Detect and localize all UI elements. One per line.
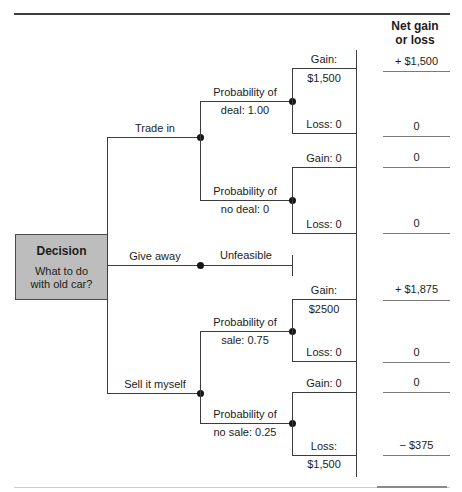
outcome-label-deal-gain: Gain: [294,53,354,66]
outcome-line-sale-loss [292,361,356,362]
deal-outcome-bracket [292,68,293,133]
chance-label-no-sale-line1: Probability of [200,408,290,421]
decision-box: Decision What to do with old car? [15,234,108,300]
outcome-amount-no-sale-loss: $1,500 [294,458,354,471]
outcome-line-no-deal-loss [292,233,356,234]
outcome-label-deal-loss: Loss: 0 [294,118,354,131]
net-gain-column-header: Net gain or loss [384,19,446,47]
outcome-line-no-sale-gain [292,392,356,393]
net-value-no-deal-loss: 0 [383,217,450,230]
chance-line-no-deal [200,200,292,201]
outcome-label-sale-gain: Gain: [294,284,354,297]
outcome-line-no-sale-loss [292,455,356,456]
net-value-no-sale-loss: − $375 [383,439,450,452]
decision-tree-figure: Net gain or loss Decision What to do wit… [0,0,462,492]
branch-label-trade-in: Trade in [115,122,195,135]
outcome-line-deal-gain [292,68,356,69]
chance-label-deal-line1: Probability of [200,86,290,99]
net-underline-sale-loss [383,362,450,363]
net-underline-no-deal-loss [383,233,450,234]
net-underline-deal-loss [383,136,450,137]
chance-label-sale-line1: Probability of [200,316,290,329]
outcome-line-deal-loss [292,133,356,134]
outcome-label-no-sale-loss: Loss: [294,440,354,453]
net-underline-no-sale-loss [383,455,450,456]
chance-label-sale-line2: sale: 0.75 [200,334,290,347]
outcome-amount-sale-gain: $2500 [294,303,354,316]
net-value-no-sale-gain: 0 [383,376,450,389]
decision-box-question-line2: with old car? [16,278,107,291]
net-value-sale-gain: + $1,875 [383,283,450,296]
sale-outcome-bracket [292,299,293,362]
net-underline-no-sale-gain [383,392,450,393]
chance-label-no-deal-line2: no deal: 0 [200,203,290,216]
no-deal-outcome-bracket [292,167,293,233]
net-value-deal-loss: 0 [383,120,450,133]
chance-line-no-sale [200,423,292,424]
net-underline-no-deal-gain [383,167,450,168]
decision-node-dot-give-away [197,262,204,269]
outcome-label-no-sale-gain: Gain: 0 [294,377,354,390]
net-underline-deal-gain [383,71,450,72]
net-value-deal-gain: + $1,500 [383,55,450,68]
payoff-separator-line [356,50,357,477]
branch-line-trade-in [107,137,200,138]
outcome-line-no-deal-gain [292,167,356,168]
no-sale-outcome-bracket [292,392,293,455]
decision-box-question-line1: What to do [16,265,107,278]
decision-box-title: Decision [16,244,107,258]
outcome-amount-deal-gain: $1,500 [294,72,354,85]
outcome-label-no-deal-gain: Gain: 0 [294,152,354,165]
chance-line-deal [200,101,292,102]
give-away-result-label: Unfeasible [203,249,289,262]
chance-label-no-sale-line2: no sale: 0.25 [200,426,290,439]
net-gain-header-line2: or loss [384,33,446,47]
outcome-line-sale-gain [292,299,356,300]
net-value-sale-loss: 0 [383,346,450,359]
bottom-rule-dark-segment [377,486,447,488]
net-underline-sale-gain [383,300,450,301]
branch-label-sell-it-myself: Sell it myself [110,378,200,391]
chance-label-deal-line2: deal: 1.00 [200,104,290,117]
branch-line-sell-it-myself [107,393,200,394]
outcome-label-sale-loss: Loss: 0 [294,346,354,359]
outcome-label-no-deal-loss: Loss: 0 [294,218,354,231]
top-rule [14,13,450,15]
chance-line-sale [200,331,292,332]
chance-label-no-deal-line1: Probability of [200,185,290,198]
branch-label-give-away: Give away [115,250,195,263]
unfeasible-terminal-tick [292,255,293,276]
net-value-no-deal-gain: 0 [383,151,450,164]
net-gain-header-line1: Net gain [384,19,446,33]
